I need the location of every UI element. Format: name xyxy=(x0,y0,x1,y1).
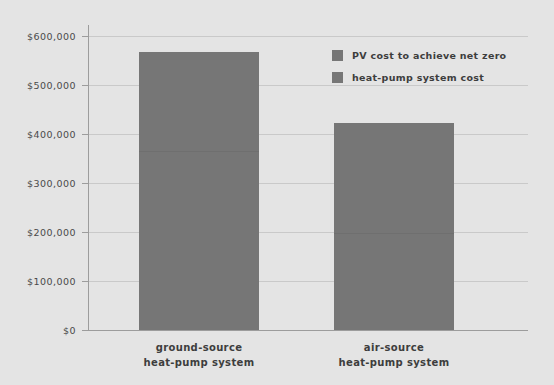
bar-segment-divider xyxy=(334,233,454,234)
y-axis-tick-label: $400,000 xyxy=(27,129,76,140)
x-axis-tick-label-line: ground-source xyxy=(139,340,259,355)
legend-swatch-heat-pump-cost xyxy=(332,72,343,83)
x-axis-tick-label-line: air-source xyxy=(334,340,454,355)
y-axis-tick-label: $0 xyxy=(63,325,76,336)
x-axis-tick-label: air-sourceheat-pump system xyxy=(334,340,454,370)
chart-legend: PV cost to achieve net zero heat-pump sy… xyxy=(332,47,506,91)
bar-ground-source[interactable] xyxy=(139,52,259,330)
legend-label-heat-pump-cost: heat-pump system cost xyxy=(352,72,484,83)
legend-label-pv-cost: PV cost to achieve net zero xyxy=(352,50,506,61)
legend-swatch-pv-cost xyxy=(332,50,343,61)
gridline xyxy=(88,330,528,331)
legend-item-pv-cost[interactable]: PV cost to achieve net zero xyxy=(332,47,506,64)
y-axis-tick-label: $600,000 xyxy=(27,31,76,42)
bar-chart: $0$100,000$200,000$300,000$400,000$500,0… xyxy=(0,0,554,385)
x-axis-tick-label-line: heat-pump system xyxy=(334,355,454,370)
y-axis-line xyxy=(88,25,89,331)
bar-segment-divider xyxy=(139,151,259,152)
legend-item-heat-pump-cost[interactable]: heat-pump system cost xyxy=(332,69,506,86)
bar-air-source[interactable] xyxy=(334,123,454,330)
y-axis-tick-label: $500,000 xyxy=(27,80,76,91)
y-axis-tick-label: $300,000 xyxy=(27,178,76,189)
x-axis-tick-label-line: heat-pump system xyxy=(139,355,259,370)
y-axis-tick-label: $100,000 xyxy=(27,276,76,287)
gridline xyxy=(88,36,528,37)
x-axis-tick-label: ground-sourceheat-pump system xyxy=(139,340,259,370)
y-axis-tick-label: $200,000 xyxy=(27,227,76,238)
